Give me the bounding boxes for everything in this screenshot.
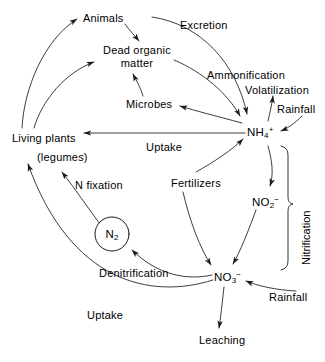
flow-microbes-to-dead-organic-matter [133, 74, 143, 96]
flow-nh4-to-volatilization [268, 96, 273, 121]
node-legumes[interactable]: (legumes) [37, 151, 88, 163]
nitrite-formula: NO [252, 196, 270, 208]
label-uptake-top: Uptake [146, 141, 182, 153]
flow-fertilizers-to-no3 [183, 192, 211, 265]
node-nitrite[interactable]: NO2− [252, 194, 279, 212]
label-leaching: Leaching [199, 334, 245, 346]
node-nitrate[interactable]: NO3− [214, 269, 241, 287]
flow-animals-to-dead-organic-matter [125, 24, 139, 41]
node-dead-organic-matter[interactable]: Dead organic matter [103, 44, 171, 70]
node-microbes[interactable]: Microbes [126, 98, 172, 110]
nitrate-formula: NO [214, 271, 232, 283]
ammonium-formula: NH [247, 126, 264, 138]
ammonium-charge: + [269, 125, 274, 134]
dinitrogen-subscript: 2 [114, 233, 118, 242]
label-n-fixation: N fixation [75, 179, 123, 191]
node-dinitrogen[interactable]: N2 [98, 228, 126, 242]
flow-no2-to-no3 [233, 210, 256, 264]
node-dead-organic-matter-line2: matter [103, 57, 171, 70]
flow-nh4-to-microbes [180, 106, 242, 123]
nitrogen-cycle-diagram: Animals Dead organic matter Microbes Liv… [0, 0, 325, 362]
label-denitrification: Denitrification [99, 267, 169, 279]
label-nitrification: Nitrification [300, 211, 312, 265]
flow-fertilizers-to-nh4 [196, 139, 243, 172]
flow-living-plants-to-animals [22, 19, 77, 128]
nitrification-bracket [281, 146, 293, 270]
label-volatilization: Volatilization [245, 84, 309, 96]
label-uptake-bottom: Uptake [87, 309, 123, 321]
dinitrogen-formula: N [106, 228, 114, 240]
label-ammonification: Ammonification [207, 69, 285, 81]
flow-nh4-to-no2 [268, 146, 272, 186]
node-dead-organic-matter-line1: Dead organic [103, 44, 171, 57]
node-ammonium[interactable]: NH4+ [247, 124, 274, 142]
flow-rainfall-to-no3 [246, 281, 296, 291]
flow-no3-to-leaching [219, 287, 224, 328]
flow-rainfall-to-nh4 [281, 116, 302, 131]
label-excretion: Excretion [180, 19, 228, 31]
node-living-plants[interactable]: Living plants [12, 132, 76, 144]
nitrite-charge: − [274, 195, 279, 204]
flow-living-plants-to-dead-organic-matter [34, 62, 94, 128]
label-rainfall-bottom: Rainfall [269, 291, 307, 303]
label-rainfall-top: Rainfall [277, 103, 315, 115]
nitrate-charge: − [236, 270, 241, 279]
label-fertilizers: Fertilizers [171, 177, 221, 189]
node-animals[interactable]: Animals [83, 12, 124, 24]
